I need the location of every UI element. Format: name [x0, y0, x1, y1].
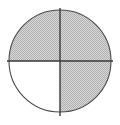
fraction-circle-graphic [0, 0, 120, 125]
quadrant-bottom-right [60, 61, 111, 112]
fraction-circle-figure [0, 0, 120, 125]
quadrant-top-left [9, 10, 60, 61]
quadrant-bottom-left [9, 61, 60, 112]
quadrant-top-right [60, 10, 111, 61]
